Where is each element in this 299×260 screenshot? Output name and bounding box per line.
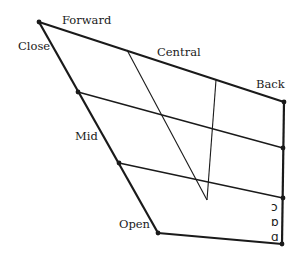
close-back-dot (282, 100, 287, 105)
front-edge (39, 22, 158, 233)
close-mid-line (78, 92, 283, 148)
close-mid-back-dot (281, 146, 286, 151)
central-line-right (207, 80, 216, 200)
label-back: Back (256, 79, 285, 91)
close-front-dot (37, 20, 42, 25)
label-central: Central (157, 47, 201, 59)
open-back-dot (280, 242, 285, 247)
bottom-edge (158, 233, 282, 244)
top-edge (39, 22, 284, 102)
vowel-open-back-unrounded: ɑ (271, 231, 279, 243)
open-mid-line (119, 163, 283, 198)
label-open: Open (119, 219, 150, 231)
label-mid: Mid (75, 131, 98, 143)
back-edge (282, 102, 284, 244)
open-mid-back-dot (281, 196, 286, 201)
label-forward: Forward (62, 15, 111, 27)
open-front-dot (156, 231, 161, 236)
close-mid-front-dot (76, 90, 81, 95)
label-close: Close (18, 41, 50, 53)
vowel-open-mid-back-rounded: ɔ (271, 201, 278, 213)
vowel-open-back-rounded: ɒ (271, 216, 279, 228)
open-mid-front-dot (117, 161, 122, 166)
vowel-chart: Forward Close Central Back Mid Open ɔ ɒ … (0, 0, 299, 260)
